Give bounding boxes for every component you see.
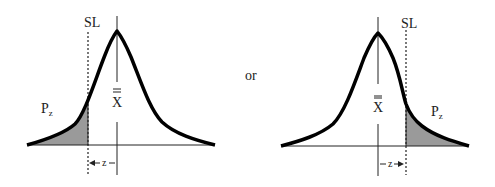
left-shaded-tail [27,103,88,145]
left-figure: SL Pz X z [27,15,215,175]
right-distance-label: z [388,158,393,169]
left-z-arrowhead-icon [89,160,95,166]
left-mean-label: X [112,95,122,110]
left-tail-area-label: Pz [41,101,53,118]
right-mean-label: X [373,100,383,115]
left-bell-curve [27,31,215,145]
right-tail-area-label: Pz [431,104,443,121]
separator-or: or [245,68,257,83]
left-spec-limit-label: SL [84,15,100,30]
right-z-arrowhead-icon [398,161,404,167]
right-bell-curve [281,33,469,146]
right-figure: SL Pz X z [281,16,469,176]
left-distance-label: z [102,157,107,168]
right-spec-limit-label: SL [401,16,417,31]
normal-distribution-diagram: SL Pz X z or SL Pz X z [0,0,495,187]
